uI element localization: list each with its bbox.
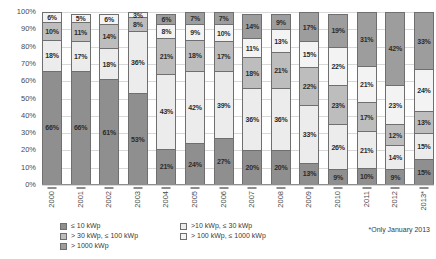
bar-segment[interactable]: 14% bbox=[385, 145, 405, 169]
bar-segment[interactable]: 9% bbox=[185, 24, 205, 40]
bar-segment[interactable]: 43% bbox=[156, 74, 176, 148]
bar-segment[interactable]: 3% bbox=[128, 12, 148, 17]
bar-segment[interactable]: 10% bbox=[42, 22, 62, 39]
bar-segment[interactable]: 36% bbox=[128, 31, 148, 93]
bar-segment[interactable]: 7% bbox=[214, 12, 234, 24]
bar-segment[interactable]: 42% bbox=[385, 12, 405, 85]
bar-segment[interactable]: 42% bbox=[185, 71, 205, 144]
bar-segment[interactable]: 21% bbox=[357, 131, 377, 167]
bar-segment[interactable]: 15% bbox=[299, 41, 319, 67]
bar-segment[interactable]: 61% bbox=[99, 79, 119, 185]
bar-segment[interactable]: 13% bbox=[414, 111, 434, 133]
bar-segment[interactable]: 8% bbox=[128, 17, 148, 31]
bar-column[interactable]: 27%39%17%10%7% bbox=[214, 12, 234, 185]
bar-segment[interactable]: 24% bbox=[414, 69, 434, 111]
bar-segment[interactable]: 12% bbox=[385, 124, 405, 145]
bar-segment[interactable]: 26% bbox=[328, 124, 348, 169]
bar-segment[interactable]: 39% bbox=[214, 71, 234, 138]
bar-segment-label: 24% bbox=[417, 87, 430, 94]
bar-segment[interactable]: 18% bbox=[99, 48, 119, 79]
bar-segment[interactable]: 8% bbox=[156, 24, 176, 38]
bar-segment-label: 7% bbox=[219, 15, 229, 22]
bar-segment[interactable]: 23% bbox=[328, 85, 348, 125]
bar-segment[interactable]: 13% bbox=[299, 163, 319, 185]
legend-item[interactable]: >10 kWp, ≤ 30 kWp bbox=[180, 222, 330, 230]
bar-segment[interactable]: 7% bbox=[185, 12, 205, 24]
bar-segment[interactable]: 11% bbox=[71, 22, 91, 41]
bar-column[interactable]: 53%36%8%3% bbox=[128, 12, 148, 185]
y-axis-tick-label: 10% bbox=[21, 164, 36, 172]
bar-segment[interactable]: 66% bbox=[42, 71, 62, 185]
bar-segment[interactable]: 19% bbox=[328, 14, 348, 47]
bar-column[interactable]: 15%15%13%24%33% bbox=[414, 12, 434, 185]
x-axis-tick: 2004 bbox=[156, 187, 176, 221]
bar-column[interactable]: 9%26%23%22%19% bbox=[328, 12, 348, 185]
bar-column[interactable]: 66%17%11%5% bbox=[71, 12, 91, 185]
bar-segment[interactable]: 11% bbox=[242, 38, 262, 57]
bar-segment[interactable]: 27% bbox=[214, 138, 234, 185]
legend-item[interactable]: > 100 kWp, ≤ 1000 kWp bbox=[180, 232, 330, 240]
bar-segment[interactable]: 21% bbox=[156, 149, 176, 185]
bar-segment-label: 3% bbox=[133, 12, 143, 19]
bar-segment[interactable]: 17% bbox=[214, 41, 234, 70]
bar-segment[interactable]: 5% bbox=[71, 14, 91, 23]
x-axis-tick-label: 2006 bbox=[220, 191, 228, 208]
bar-segment[interactable]: 10% bbox=[357, 168, 377, 185]
bar-segment[interactable]: 21% bbox=[357, 66, 377, 102]
x-axis-tick-label: 2013* bbox=[420, 191, 428, 211]
bar-column[interactable]: 10%21%17%21%31% bbox=[357, 12, 377, 185]
bar-segment[interactable]: 9% bbox=[271, 14, 291, 30]
bar-column[interactable]: 9%14%12%23%42% bbox=[385, 12, 405, 185]
bar-segment[interactable]: 21% bbox=[271, 52, 291, 88]
bar-column[interactable]: 66%18%10%6% bbox=[42, 12, 62, 185]
bar-segment[interactable]: 23% bbox=[385, 85, 405, 125]
bar-segment[interactable]: 20% bbox=[271, 150, 291, 185]
bar-segment[interactable]: 33% bbox=[414, 12, 434, 69]
legend-item[interactable]: > 1000 kWp bbox=[60, 242, 180, 250]
bar-column[interactable]: 61%18%14%6% bbox=[99, 12, 119, 185]
bar-segment[interactable]: 17% bbox=[71, 41, 91, 70]
bar-segment[interactable]: 14% bbox=[99, 24, 119, 48]
bar-segment[interactable]: 13% bbox=[271, 29, 291, 51]
bar-segment[interactable]: 9% bbox=[385, 169, 405, 185]
bar-segment[interactable]: 6% bbox=[99, 14, 119, 24]
bar-segment[interactable]: 66% bbox=[71, 71, 91, 185]
legend-item[interactable]: ≤ 10 kWp bbox=[60, 222, 180, 230]
bar-segment[interactable]: 15% bbox=[414, 159, 434, 185]
bar-segment-label: 19% bbox=[331, 27, 344, 34]
x-axis-tick: 2001 bbox=[71, 187, 91, 221]
bar-column[interactable]: 13%33%22%15%17% bbox=[299, 12, 319, 185]
bar-column[interactable]: 24%42%18%9%7% bbox=[185, 12, 205, 185]
bar-segment-label: 18% bbox=[246, 70, 259, 77]
bar-segment[interactable]: 6% bbox=[156, 14, 176, 24]
bar-segment[interactable]: 17% bbox=[299, 12, 319, 41]
bar-column[interactable]: 20%36%18%11%14% bbox=[242, 12, 262, 185]
legend-item[interactable]: > 30 kWp, ≤ 100 kWp bbox=[60, 232, 180, 240]
bar-segment-label: 9% bbox=[276, 19, 286, 26]
bar-segment[interactable]: 20% bbox=[242, 150, 262, 185]
bar-segment[interactable]: 6% bbox=[42, 12, 62, 22]
bar-segment[interactable]: 22% bbox=[299, 67, 319, 105]
bar-segment[interactable]: 10% bbox=[214, 24, 234, 41]
bar-segment[interactable]: 31% bbox=[357, 12, 377, 66]
bar-segment[interactable]: 18% bbox=[242, 57, 262, 88]
bar-segment[interactable]: 14% bbox=[242, 14, 262, 38]
y-axis-tick-label: 50% bbox=[21, 95, 36, 103]
bar-segment[interactable]: 17% bbox=[357, 102, 377, 131]
bar-segment[interactable]: 36% bbox=[271, 88, 291, 150]
bar-segment[interactable]: 18% bbox=[185, 40, 205, 71]
bar-segment[interactable]: 15% bbox=[414, 133, 434, 159]
bar-segment[interactable]: 22% bbox=[328, 47, 348, 85]
bar-column[interactable]: 21%43%21%8%6% bbox=[156, 12, 176, 185]
bar-segment-label: 13% bbox=[303, 170, 316, 177]
bar-segment[interactable]: 18% bbox=[42, 40, 62, 71]
bar-segment[interactable]: 24% bbox=[185, 143, 205, 185]
bar-segment[interactable]: 21% bbox=[156, 38, 176, 74]
x-axis-tick-mark bbox=[76, 187, 85, 189]
bar-segment[interactable]: 9% bbox=[328, 169, 348, 185]
bar-column[interactable]: 20%36%21%13%9% bbox=[271, 12, 291, 185]
bar-segment[interactable]: 33% bbox=[299, 105, 319, 162]
bar-segment[interactable]: 53% bbox=[128, 93, 148, 185]
bar-segment[interactable]: 36% bbox=[242, 88, 262, 150]
bar-segment-label: 42% bbox=[389, 45, 402, 52]
